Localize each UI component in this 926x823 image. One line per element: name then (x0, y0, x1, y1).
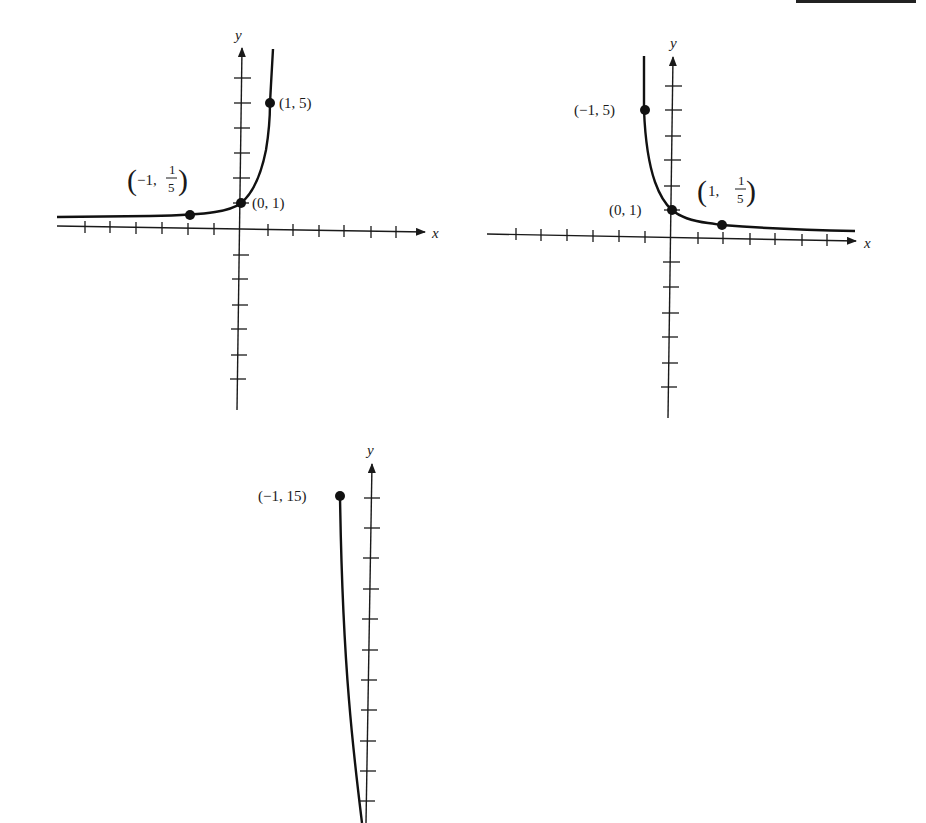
graph-1: y x (1, 5) (0, 1) ( −1, 1 5 ) (57, 27, 439, 410)
g1-point-1-5 (265, 98, 275, 108)
g3-y-label: y (365, 442, 374, 458)
svg-text:5: 5 (737, 191, 744, 206)
g2-point-1-fifth (717, 220, 727, 230)
svg-text:1: 1 (169, 162, 176, 177)
g3-label-neg1-15: (−1, 15) (258, 488, 306, 505)
g1-x-label: x (431, 225, 439, 241)
g3-point-neg1-15 (335, 491, 345, 501)
graphs-canvas: y x (1, 5) (0, 1) ( −1, 1 5 ) (0, 0, 926, 823)
g2-y-label: y (668, 35, 677, 51)
g2-point-0-1 (667, 205, 677, 215)
svg-text:): ) (746, 174, 756, 208)
svg-text:5: 5 (168, 180, 175, 195)
g1-x-axis (57, 226, 425, 232)
g3-y-axis (366, 464, 372, 823)
g3-curve (340, 496, 362, 823)
svg-text:): ) (178, 163, 188, 197)
graph-3: y (−1, 15) (258, 442, 380, 823)
svg-text:(: ( (697, 174, 707, 208)
g2-x-label: x (863, 235, 871, 251)
g2-label-neg1-5: (−1, 5) (574, 102, 615, 119)
g2-point-neg1-5 (640, 105, 650, 115)
textbook-page: y x (1, 5) (0, 1) ( −1, 1 5 ) (0, 0, 926, 823)
svg-text:−1,: −1, (137, 172, 157, 188)
g1-point-0-1 (236, 198, 246, 208)
g1-label-0-1: (0, 1) (252, 195, 285, 212)
g2-label-0-1: (0, 1) (609, 202, 642, 219)
g2-label-1-fifth: ( 1, 1 5 ) (697, 173, 756, 208)
svg-text:(: ( (127, 163, 137, 197)
g1-label-1-5: (1, 5) (279, 95, 312, 112)
g2-x-axis (487, 234, 856, 241)
graph-2: y x (−1, 5) (0, 1) ( 1, 1 5 ) (487, 35, 871, 418)
g1-y-label: y (233, 27, 242, 43)
svg-text:1: 1 (738, 173, 745, 188)
svg-text:1,: 1, (708, 183, 719, 199)
g1-label-neg1-fifth: ( −1, 1 5 ) (127, 162, 188, 197)
g3-y-ticks (359, 498, 380, 801)
g1-point-neg1-fifth (185, 210, 195, 220)
